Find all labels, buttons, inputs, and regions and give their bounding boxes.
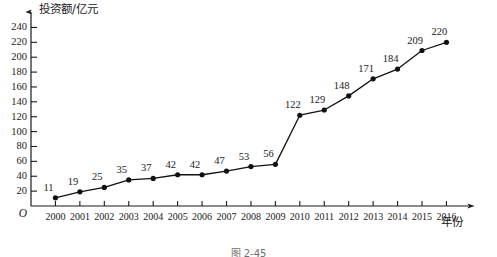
data-point	[444, 40, 449, 45]
data-point	[273, 162, 278, 167]
data-point-label: 53	[239, 151, 250, 162]
series-line-investment	[55, 42, 446, 198]
data-point-label: 42	[190, 159, 201, 170]
line-chart: 投资额/亿元 年份 O 2040608010012014016018020022…	[0, 0, 497, 257]
y-axis-title: 投资额/亿元	[39, 2, 99, 16]
data-point	[77, 189, 82, 194]
data-point	[297, 113, 302, 118]
y-tick-label: 140	[11, 96, 27, 107]
data-point-label: 148	[334, 80, 350, 91]
x-tick-label: 2013	[363, 211, 383, 222]
x-tick-label: 2011	[314, 211, 334, 222]
data-point-label: 19	[68, 176, 79, 187]
y-tick-labels: 20406080100120140160180200220240	[11, 21, 27, 196]
data-point	[102, 185, 107, 190]
data-point	[371, 76, 376, 81]
x-tick-label: 2002	[94, 211, 114, 222]
x-tick-label: 2003	[119, 211, 139, 222]
y-tick-marks	[31, 27, 37, 191]
data-point	[395, 67, 400, 72]
data-point-label: 122	[285, 99, 301, 110]
data-point	[175, 172, 180, 177]
data-point-label: 184	[383, 53, 400, 64]
x-tick-label: 2012	[339, 211, 359, 222]
y-tick-label: 80	[17, 140, 28, 151]
data-point	[126, 177, 131, 182]
x-tick-label: 2007	[217, 211, 237, 222]
y-tick-label: 160	[11, 81, 27, 92]
y-tick-label: 120	[11, 111, 27, 122]
data-point	[322, 107, 327, 112]
x-tick-label: 2004	[143, 211, 163, 222]
x-tick-label: 2006	[192, 211, 212, 222]
data-point	[224, 168, 229, 173]
figure-caption: 图 2-45	[0, 248, 497, 257]
x-tick-label: 2015	[412, 211, 432, 222]
y-tick-label: 220	[11, 36, 27, 47]
data-point	[346, 93, 351, 98]
data-point-label: 129	[309, 94, 325, 105]
data-point-label: 35	[117, 164, 128, 175]
x-tick-label: 2010	[290, 211, 310, 222]
data-point-label: 220	[432, 26, 448, 37]
data-point-label: 37	[141, 162, 152, 173]
x-tick-label: 2014	[388, 211, 408, 222]
x-tick-label: 2009	[265, 211, 285, 222]
data-point-label: 56	[263, 148, 274, 159]
x-tick-labels: 2000200120022003200420052006200720082009…	[45, 211, 456, 222]
y-tick-label: 180	[11, 66, 27, 77]
x-tick-label: 2008	[241, 211, 261, 222]
x-tick-label: 2016	[436, 211, 456, 222]
origin-label: O	[19, 207, 28, 219]
y-tick-label: 240	[11, 21, 27, 32]
x-tick-label: 2001	[70, 211, 90, 222]
data-point	[419, 48, 424, 53]
data-point-label: 25	[92, 171, 103, 182]
data-point	[151, 176, 156, 181]
data-point-label: 209	[407, 35, 423, 46]
data-point-label: 171	[358, 63, 374, 74]
chart-page: 投资额/亿元 年份 O 2040608010012014016018020022…	[0, 0, 497, 257]
data-point	[199, 172, 204, 177]
data-point-label: 11	[43, 182, 53, 193]
data-point	[248, 164, 253, 169]
x-tick-label: 2000	[45, 211, 65, 222]
x-tick-marks	[55, 201, 446, 206]
x-tick-label: 2005	[168, 211, 188, 222]
data-point	[53, 195, 58, 200]
y-tick-label: 40	[17, 170, 28, 181]
y-tick-label: 20	[17, 185, 28, 196]
y-tick-label: 100	[11, 126, 27, 137]
data-point-label: 42	[165, 159, 176, 170]
data-point-label: 47	[214, 155, 225, 166]
y-tick-label: 200	[11, 51, 27, 62]
y-tick-label: 60	[17, 155, 28, 166]
